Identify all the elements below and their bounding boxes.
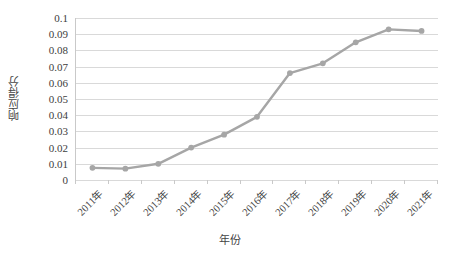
x-axis-tick-mark [305,180,306,184]
data-point-marker [254,114,260,120]
data-point-marker [155,161,161,167]
x-axis-tick-mark [338,180,339,184]
data-point-marker [419,28,425,34]
data-point-marker [122,166,128,172]
y-axis-tick-label: 0.08 [49,44,68,56]
y-axis-tick-label: 0.09 [49,28,68,40]
x-axis-tick-mark [371,180,372,184]
data-point-marker [353,39,359,45]
series-line-response-score [76,18,438,180]
y-axis-tick-label: 0.06 [49,77,68,89]
x-axis-tick-mark [174,180,175,184]
data-point-marker [287,70,293,76]
y-axis-title: 响应得分 [2,0,26,195]
y-axis-tick-label: 0.04 [49,109,68,121]
y-axis-tick-labels: 00.010.020.030.040.050.060.070.080.090.1 [26,0,72,195]
y-axis-title-text: 响应得分 [6,75,22,121]
x-axis-tick-mark [240,180,241,184]
x-axis-tick-mark [207,180,208,184]
x-axis-tick-mark [108,180,109,184]
y-axis-tick-label: 0.01 [49,158,68,170]
data-point-marker [221,132,227,138]
data-point-marker [320,60,326,66]
data-point-marker [386,26,392,32]
x-axis-tick-mark [272,180,273,184]
line-chart: 响应得分 00.010.020.030.040.050.060.070.080.… [0,0,460,260]
y-axis-tick-label: 0 [63,174,69,186]
data-point-marker [188,145,194,151]
y-axis-tick-label: 0.03 [49,125,68,137]
x-axis-tick-labels: 2011年2012年2013年2014年2015年2016年2017年2018年… [0,186,460,228]
y-axis-tick-label: 0.05 [49,93,68,105]
data-point-marker [90,165,96,171]
series-line [92,29,421,168]
x-axis-tick-mark [75,180,76,184]
x-axis-tick-mark [437,180,438,184]
x-axis-tick-mark [141,180,142,184]
y-axis-tick-label: 0.1 [54,12,68,24]
x-axis-tick-marks [75,180,438,185]
x-axis-title: 年份 [0,231,460,247]
x-axis-tick-mark [404,180,405,184]
y-axis-tick-label: 0.02 [49,142,68,154]
plot-area [75,18,438,181]
y-axis-tick-label: 0.07 [49,61,68,73]
